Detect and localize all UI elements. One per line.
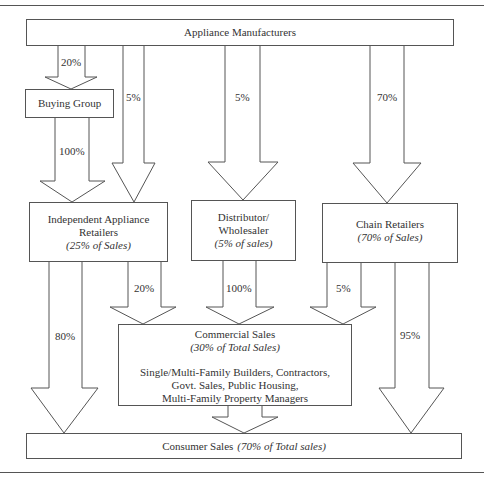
arrow-mfr-to-independent-icon	[112, 45, 155, 202]
node-share: (5% of sales)	[214, 237, 272, 250]
arrow-chain-to-consumer-icon	[379, 262, 444, 433]
node-label: Appliance Manufacturers	[184, 26, 296, 39]
node-distributor-wholesaler: Distributor/ Wholesaler (5% of sales)	[191, 200, 296, 261]
node-label-line2: Retailers	[79, 226, 118, 239]
arrow-independent-to-consumer-icon	[31, 261, 98, 433]
node-label: Chain Retailers	[356, 218, 424, 231]
node-desc-line2: Govt. Sales, Public Housing,	[171, 379, 298, 392]
node-buying-group: Buying Group	[25, 89, 114, 118]
flow-label-mfr-to-distributor: 5%	[235, 91, 250, 103]
node-label-line2: Wholesaler	[218, 224, 268, 237]
flow-label-chain-to-commercial: 5%	[336, 282, 351, 294]
node-desc-line3: Multi-Family Property Managers	[162, 392, 308, 405]
node-share: (30% of Total Sales)	[190, 341, 280, 354]
flow-label-mfr-to-independent: 5%	[126, 91, 141, 103]
node-label-line1: Distributor/	[218, 211, 269, 224]
node-consumer-sales: Consumer Sales (70% of Total sales)	[26, 433, 462, 459]
node-share: (70% of Total sales)	[237, 440, 326, 453]
arrow-commercial-to-consumer-icon	[212, 405, 278, 433]
flow-label-mfr-to-buying: 20%	[61, 56, 81, 68]
node-share: (70% of Sales)	[358, 231, 423, 244]
flow-label-independent-to-commercial: 20%	[134, 282, 154, 294]
flow-label-mfr-to-chain: 70%	[377, 91, 397, 103]
node-independent-retailers: Independent Appliance Retailers (25% of …	[29, 202, 168, 262]
node-label: Consumer Sales	[162, 440, 233, 453]
node-label: Commercial Sales	[195, 328, 275, 341]
node-chain-retailers: Chain Retailers (70% of Sales)	[322, 203, 458, 263]
node-share: (25% of Sales)	[66, 239, 131, 252]
node-appliance-manufacturers: Appliance Manufacturers	[26, 19, 454, 46]
flow-label-independent-to-consumer: 80%	[55, 330, 75, 342]
node-label-line1: Independent Appliance	[48, 213, 150, 226]
flow-label-buying-to-independent: 100%	[59, 145, 85, 157]
arrow-mfr-to-distributor-icon	[208, 45, 278, 200]
arrow-buying-to-independent-icon	[40, 117, 105, 202]
arrow-mfr-to-chain-icon	[353, 45, 421, 203]
flow-label-distributor-to-commercial: 100%	[226, 282, 252, 294]
flow-label-chain-to-consumer: 95%	[400, 329, 420, 341]
node-label: Buying Group	[38, 97, 101, 110]
node-commercial-sales: Commercial Sales (30% of Total Sales) Si…	[118, 324, 352, 406]
node-desc-line1: Single/Multi-Family Builders, Contractor…	[140, 366, 330, 379]
